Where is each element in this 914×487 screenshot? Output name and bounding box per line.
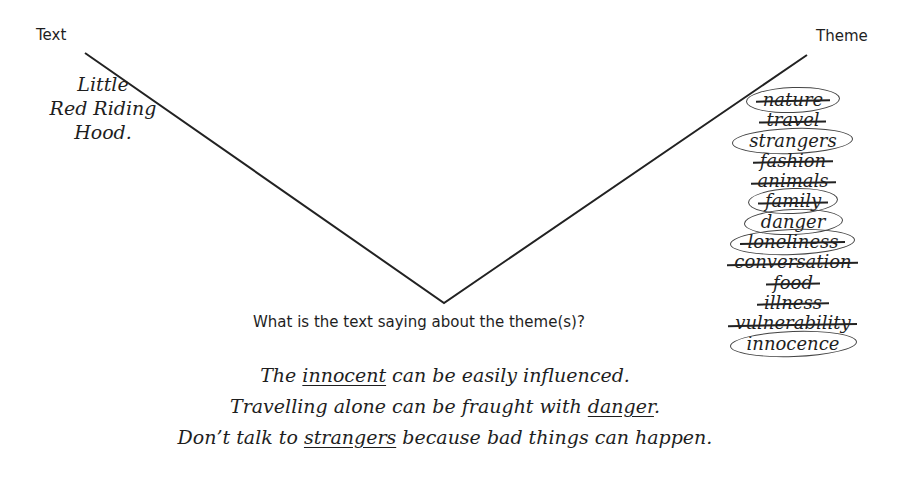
answer-line: The innocent can be easily influenced. (90, 360, 800, 391)
answer-text: . (654, 395, 660, 417)
theme-word: strangers (746, 131, 839, 151)
answer-list: The innocent can be easily influenced. T… (90, 360, 800, 453)
question-prompt: What is the text saying about the theme(… (253, 313, 585, 331)
text-title-line: Hood. (28, 120, 178, 144)
theme-item: nature (708, 90, 878, 110)
text-title-line: Little (28, 72, 178, 96)
theme-word: fashion (757, 151, 829, 171)
answer-keyword: innocent (302, 364, 386, 386)
theme-item: fashion (708, 151, 878, 171)
theme-list: nature travel strangers fashion animals … (708, 90, 878, 354)
answer-keyword: strangers (304, 426, 396, 448)
answer-text: can be easily influenced. (386, 364, 630, 386)
text-heading: Text (36, 26, 66, 44)
text-title-line: Red Riding (28, 96, 178, 120)
answer-text: The (260, 364, 302, 386)
theme-heading: Theme (816, 27, 868, 45)
theme-word: conversation (731, 252, 854, 272)
answer-keyword: danger (588, 395, 654, 417)
theme-word: nature (760, 90, 826, 110)
theme-word: loneliness (744, 232, 841, 252)
theme-item: innocence (708, 334, 878, 354)
v-diagram-lines (85, 53, 807, 303)
theme-item: strangers (708, 131, 878, 151)
answer-text: because bad things can happen. (396, 426, 712, 448)
answer-line: Travelling alone can be fraught with dan… (90, 391, 800, 422)
answer-line: Don’t talk to strangers because bad thin… (90, 422, 800, 453)
theme-word: illness (761, 293, 825, 313)
text-title: Little Red Riding Hood. (28, 72, 178, 144)
answer-text: Travelling alone can be fraught with (230, 395, 588, 417)
theme-item: food (708, 273, 878, 293)
answer-text: Don’t talk to (178, 426, 304, 448)
theme-word: food (770, 273, 816, 293)
theme-item: loneliness (708, 232, 878, 252)
theme-item: illness (708, 293, 878, 313)
theme-word: innocence (744, 334, 843, 354)
theme-item: conversation (708, 252, 878, 272)
